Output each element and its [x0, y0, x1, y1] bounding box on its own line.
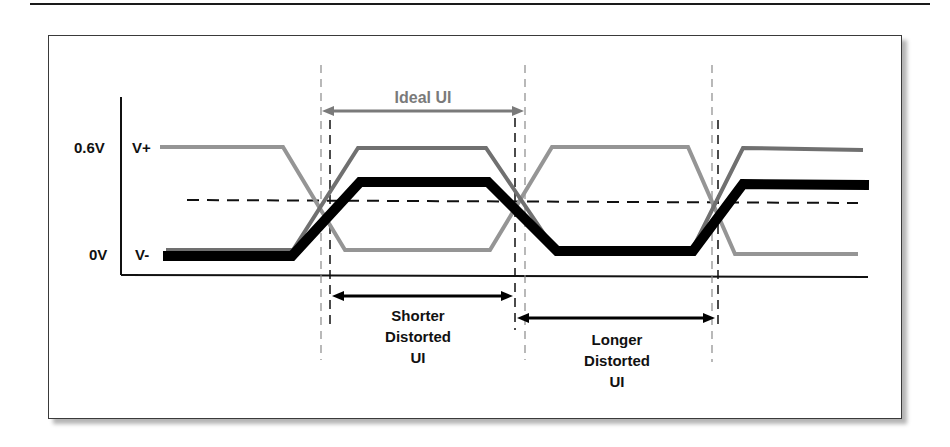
shorter-ui-label-line3: UI — [411, 349, 426, 366]
y-label-low: 0V — [89, 246, 107, 263]
ideal-ui-arrow — [322, 106, 524, 116]
v-minus-label: V- — [135, 246, 149, 263]
timing-diagram: 0.6V 0V V+ V- Ideal UI Shorter Distorted… — [0, 0, 950, 447]
shorter-ui-label-line1: Shorter — [391, 307, 445, 324]
longer-ui-label-line2: Distorted — [584, 352, 650, 369]
shorter-ui-label-line2: Distorted — [385, 328, 451, 345]
x-axis — [121, 275, 868, 277]
v-plus-label: V+ — [132, 139, 151, 156]
y-label-high: 0.6V — [74, 139, 105, 156]
ideal-ui-label: Ideal UI — [395, 89, 452, 106]
longer-ui-label-line1: Longer — [592, 331, 643, 348]
shorter-ui-arrow — [332, 291, 513, 301]
longer-ui-arrow — [517, 313, 715, 323]
longer-ui-label-line3: UI — [610, 373, 625, 390]
